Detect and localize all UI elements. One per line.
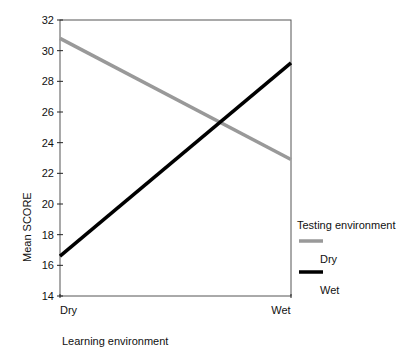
y-tick-label: 32: [42, 14, 54, 26]
y-tick-label: 28: [42, 75, 54, 87]
x-tick-label: Wet: [271, 304, 290, 316]
y-tick-label: 16: [42, 259, 54, 271]
x-tick-label: Dry: [60, 304, 78, 316]
legend: Testing environmentDryWet: [297, 219, 395, 296]
series-lines: [60, 38, 291, 256]
series-line-wet: [60, 63, 291, 256]
legend-label-wet: Wet: [320, 284, 339, 296]
y-tick-label: 22: [42, 167, 54, 179]
y-tick-label: 20: [42, 198, 54, 210]
x-axis-title: Learning environment: [62, 335, 168, 347]
y-tick-label: 26: [42, 106, 54, 118]
series-line-dry: [60, 38, 291, 159]
legend-label-dry: Dry: [320, 253, 338, 265]
y-tick-label: 14: [42, 290, 54, 302]
y-tick-label: 30: [42, 45, 54, 57]
legend-title: Testing environment: [297, 219, 395, 231]
y-axis-title: Mean SCORE: [21, 192, 33, 262]
y-tick-label: 24: [42, 137, 54, 149]
y-tick-label: 18: [42, 229, 54, 241]
x-axis: DryWet: [60, 294, 291, 316]
chart: 14161820222426283032 DryWet Mean SCORE L…: [0, 0, 411, 357]
